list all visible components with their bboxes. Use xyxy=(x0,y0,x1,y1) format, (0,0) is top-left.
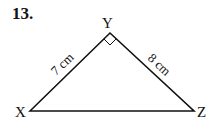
side-label-yz: 8 cm xyxy=(145,50,174,78)
vertex-label-z: Z xyxy=(197,104,206,120)
vertex-label-y: Y xyxy=(102,15,113,31)
right-angle-marker xyxy=(104,39,116,45)
vertex-label-x: X xyxy=(15,104,26,120)
triangle-diagram: Y X Z 7 cm 8 cm xyxy=(0,0,214,131)
side-label-xy: 7 cm xyxy=(48,50,77,79)
